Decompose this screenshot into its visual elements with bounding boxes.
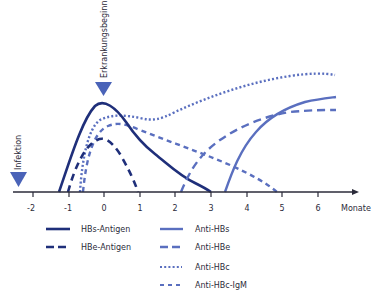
legend-item-anti-hbc: Anti-HBc [160, 263, 230, 272]
tick-label: 4 [244, 204, 249, 213]
onset-marker-icon [95, 82, 112, 96]
legend: HBs-Antigen HBe-Antigen Anti-HBs Anti-HB… [46, 225, 247, 290]
infection-annotation: Infektion [10, 135, 27, 187]
tick-label: -2 [27, 204, 35, 213]
hepatitis-b-serology-chart: Infektion Erkrankungsbeginn [0, 0, 380, 296]
tick-label: 0 [101, 204, 106, 213]
legend-label: Anti-HBc [195, 263, 230, 272]
onset-label: Erkrankungsbeginn [100, 1, 109, 78]
tick-label: 2 [172, 204, 177, 213]
tick-label: 1 [137, 204, 142, 213]
onset-annotation: Erkrankungsbeginn [95, 1, 112, 96]
axis-arrow-icon [352, 189, 359, 195]
x-axis: -2 -1 0 1 2 3 4 5 6 Monate [13, 189, 371, 213]
x-axis-unit-label: Monate [341, 204, 371, 213]
legend-item-hbe-antigen: HBe-Antigen [46, 243, 131, 252]
tick-label: 5 [279, 204, 284, 213]
series-anti-hbc-igm [83, 124, 277, 192]
tick-label: 6 [315, 204, 320, 213]
legend-item-anti-hbs: Anti-HBs [160, 225, 229, 234]
legend-item-anti-hbe: Anti-HBe [160, 243, 230, 252]
series-hbe-antigen [68, 139, 138, 192]
infection-marker-icon [10, 172, 27, 187]
legend-item-anti-hbc-igm: Anti-HBc-IgM [160, 281, 247, 290]
series-anti-hbc [80, 74, 335, 192]
legend-label: Anti-HBs [195, 225, 229, 234]
curves [59, 74, 336, 192]
infection-label: Infektion [14, 135, 23, 170]
tick-label: -1 [64, 204, 72, 213]
tick-label: 3 [208, 204, 213, 213]
legend-label: Anti-HBe [195, 243, 230, 252]
legend-item-hbs-antigen: HBs-Antigen [46, 225, 130, 234]
legend-label: HBe-Antigen [81, 243, 131, 252]
legend-label: Anti-HBc-IgM [195, 281, 247, 290]
legend-label: HBs-Antigen [81, 225, 130, 234]
